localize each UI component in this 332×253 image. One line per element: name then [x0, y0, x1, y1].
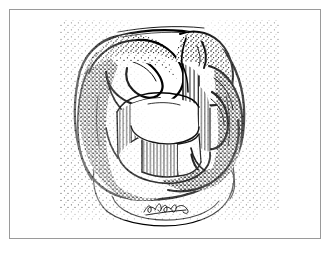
tooth-illustration: [0, 0, 332, 253]
drawing-ink: [60, 20, 280, 226]
figure-frame: Line drawing of a molar tooth viewed fro…: [0, 0, 332, 253]
